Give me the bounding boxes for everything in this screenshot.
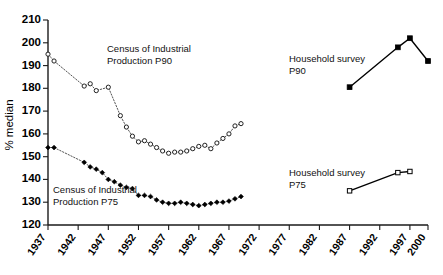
x-tick-labels: 1937194219471952195719621967197219771982… xyxy=(24,231,427,257)
data-point xyxy=(214,200,219,205)
data-point xyxy=(191,147,195,151)
x-tick-label: 1992 xyxy=(356,231,379,257)
y-tick-labels: 210 200 190 180 170 160 150 140 130 120 xyxy=(22,13,41,230)
data-point xyxy=(161,149,165,153)
annot-line: P75 xyxy=(289,179,306,190)
data-point xyxy=(124,125,128,129)
series-layer xyxy=(46,36,431,208)
data-point xyxy=(118,114,122,118)
data-point xyxy=(209,147,213,151)
data-point xyxy=(154,198,159,203)
data-point xyxy=(106,85,110,89)
annot-cip-p75: Census of Industrial Production P75 xyxy=(53,184,137,207)
series-0 xyxy=(46,52,243,155)
data-point xyxy=(426,59,431,64)
data-point xyxy=(408,169,412,173)
data-point xyxy=(408,36,413,41)
x-tick-label: 1942 xyxy=(55,231,78,257)
data-point xyxy=(94,89,98,93)
data-point xyxy=(166,201,171,206)
x-tick-label: 1962 xyxy=(175,231,198,257)
data-point xyxy=(136,140,140,144)
data-point xyxy=(148,142,152,146)
data-point xyxy=(94,167,99,172)
data-point xyxy=(160,200,165,205)
annot-line: Census of Industrial xyxy=(107,43,191,54)
y-tick-label: 170 xyxy=(22,104,41,116)
data-point xyxy=(167,151,171,155)
data-point xyxy=(396,170,400,174)
annot-line: Household survey xyxy=(289,167,365,178)
data-point xyxy=(239,122,243,126)
data-point xyxy=(202,202,207,207)
data-point xyxy=(106,177,111,182)
annot-line: Production P90 xyxy=(107,55,172,66)
data-point xyxy=(395,45,400,50)
x-tick-label: 1982 xyxy=(296,231,319,257)
data-point xyxy=(239,194,244,199)
chart-svg: % median 210 200 190 180 170 160 150 140 xyxy=(0,0,443,275)
data-point xyxy=(52,145,57,150)
data-point xyxy=(82,84,86,88)
data-point xyxy=(347,85,352,90)
y-tick-label: 160 xyxy=(22,127,41,139)
x-ticks xyxy=(48,225,428,230)
annot-line: Production P75 xyxy=(53,196,118,207)
y-tick-label: 180 xyxy=(22,81,41,93)
data-point xyxy=(233,196,238,201)
data-point xyxy=(172,201,177,206)
x-tick-label: 1957 xyxy=(145,231,168,257)
chart-container: % median 210 200 190 180 170 160 150 140 xyxy=(0,0,443,275)
data-point xyxy=(347,189,351,193)
data-point xyxy=(208,201,213,206)
data-point xyxy=(148,194,153,199)
data-point xyxy=(196,203,201,208)
data-point xyxy=(227,132,231,136)
data-point xyxy=(52,59,56,63)
annot-hs-p75: Household survey P75 xyxy=(289,167,365,190)
data-point xyxy=(46,52,50,56)
data-point xyxy=(221,136,225,140)
y-tick-label: 190 xyxy=(22,59,41,71)
annot-hs-p90: Household survey P90 xyxy=(289,53,365,76)
x-tick-label: 1937 xyxy=(24,231,47,257)
y-tick-label: 150 xyxy=(22,150,41,162)
x-tick-label: 1997 xyxy=(386,231,409,257)
annot-cip-p90: Census of Industrial Production P90 xyxy=(107,43,191,66)
data-point xyxy=(184,201,189,206)
data-point xyxy=(179,150,183,154)
data-point xyxy=(142,193,147,198)
x-tick-label: 1952 xyxy=(115,231,138,257)
data-point xyxy=(173,150,177,154)
data-point xyxy=(130,134,134,138)
data-point xyxy=(190,202,195,207)
data-point xyxy=(46,145,51,150)
x-tick-label: 1977 xyxy=(266,231,289,257)
x-tick-label: 2000 xyxy=(404,231,427,257)
y-tick-label: 130 xyxy=(22,195,41,207)
y-tick-label: 140 xyxy=(22,172,41,184)
data-point xyxy=(221,200,226,205)
x-tick-label: 1987 xyxy=(326,231,349,257)
x-tick-label: 1967 xyxy=(205,231,228,257)
data-point xyxy=(178,200,183,205)
x-tick-label: 1947 xyxy=(85,231,108,257)
data-point xyxy=(142,139,146,143)
data-point xyxy=(227,199,232,204)
data-point xyxy=(203,143,207,147)
data-point xyxy=(154,145,158,149)
y-tick-label: 210 xyxy=(22,13,41,25)
annot-line: Census of Industrial xyxy=(53,184,137,195)
y-tick-label: 120 xyxy=(22,218,41,230)
data-point xyxy=(197,144,201,148)
y-ticks xyxy=(43,20,48,225)
y-axis-title: % median xyxy=(3,99,15,150)
annot-line: P90 xyxy=(289,65,306,76)
data-point xyxy=(233,124,237,128)
x-tick-label: 1972 xyxy=(236,231,259,257)
annot-line: Household survey xyxy=(289,53,365,64)
y-tick-label: 200 xyxy=(22,36,41,48)
data-point xyxy=(215,141,219,145)
data-point xyxy=(185,149,189,153)
data-point xyxy=(88,82,92,86)
